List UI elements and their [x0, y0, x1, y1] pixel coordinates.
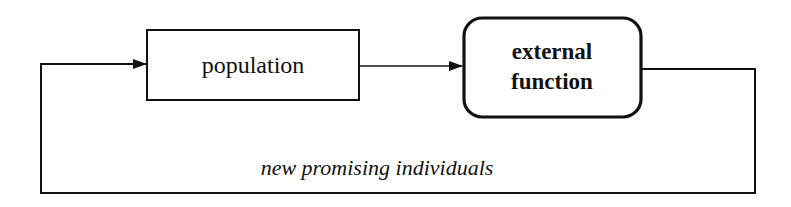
external-function-label-line2: function — [511, 69, 593, 94]
external-function-node: external function — [464, 18, 641, 117]
feedback-edge-label: new promising individuals — [261, 155, 494, 180]
external-function-label-line1: external — [512, 39, 592, 64]
population-node: population — [147, 30, 359, 100]
population-label: population — [202, 52, 305, 78]
diagram-canvas: population external function new promisi… — [0, 0, 791, 207]
